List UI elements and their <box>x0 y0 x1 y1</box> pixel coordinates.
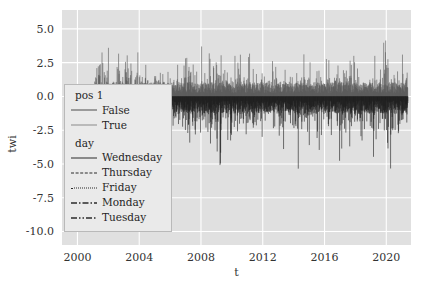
x-tick-label: 2020 <box>372 251 400 264</box>
legend-line-swatch <box>71 104 97 116</box>
legend-item[interactable]: Friday <box>71 180 165 195</box>
y-axis-title: twi <box>6 135 19 152</box>
legend-line-swatch <box>71 119 97 131</box>
legend-item[interactable]: Thursday <box>71 165 165 180</box>
y-tick-label: 0.0 <box>37 90 55 103</box>
legend-item-label: Tuesday <box>102 212 146 223</box>
legend-line-swatch <box>71 212 97 224</box>
legend-group-title: pos 1 <box>75 90 165 101</box>
x-axis-tick-labels: 200020042008201220162020 <box>62 245 411 267</box>
legend-line-swatch <box>71 182 97 194</box>
legend-line-swatch <box>71 152 97 164</box>
y-tick-label: -2.5 <box>33 124 54 137</box>
legend-item-label: False <box>102 105 130 116</box>
x-tick-label: 2016 <box>311 251 339 264</box>
y-tick-label: 2.5 <box>37 56 55 69</box>
y-axis-tick-labels: 5.02.50.0-2.5-5.0-7.5-10.0 <box>0 10 58 245</box>
legend-item[interactable]: True <box>71 118 165 133</box>
y-tick-label: -5.0 <box>33 157 54 170</box>
legend-item-label: Wednesday <box>102 152 162 163</box>
legend-line-swatch <box>71 197 97 209</box>
x-axis-title: t <box>62 266 411 279</box>
x-tick-label: 2012 <box>249 251 277 264</box>
legend-item-label: Friday <box>102 182 137 193</box>
y-tick-label: -7.5 <box>33 191 54 204</box>
legend-item[interactable]: False <box>71 103 165 118</box>
y-tick-label: -10.0 <box>26 225 54 238</box>
chart-legend[interactable]: pos 1FalseTruedayWednesdayThursdayFriday… <box>64 84 172 232</box>
legend-item-label: Thursday <box>102 167 152 178</box>
y-tick-label: 5.0 <box>37 22 55 35</box>
legend-line-swatch <box>71 167 97 179</box>
legend-group-title: day <box>75 138 165 149</box>
figure: 5.02.50.0-2.5-5.0-7.5-10.0 twi 200020042… <box>0 0 426 288</box>
legend-item[interactable]: Wednesday <box>71 150 165 165</box>
x-tick-label: 2008 <box>187 251 215 264</box>
x-tick-label: 2004 <box>125 251 153 264</box>
legend-item-label: Monday <box>102 197 145 208</box>
legend-item-label: True <box>102 120 127 131</box>
x-tick-label: 2000 <box>63 251 91 264</box>
legend-item[interactable]: Tuesday <box>71 210 165 225</box>
legend-item[interactable]: Monday <box>71 195 165 210</box>
